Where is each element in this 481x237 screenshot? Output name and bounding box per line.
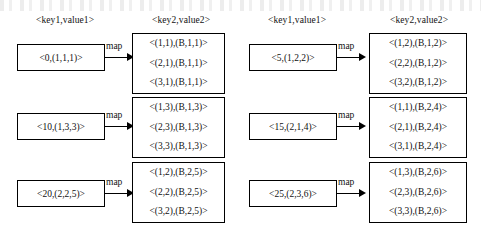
target-record-row: <(3,2),(B,2,5)> bbox=[149, 207, 207, 217]
source-record-box: <20,(2,2,5)> bbox=[17, 180, 105, 207]
target-record-row: <(2,2),(B,2,5)> bbox=[149, 188, 207, 198]
target-record-row: <(3,2),(B,1,2)> bbox=[389, 78, 447, 88]
target-record-row: <(3,1),(B,2,4)> bbox=[389, 142, 447, 152]
target-record-row: <(1,3),(B,2,6)> bbox=[389, 168, 447, 178]
target-records-box: <(1,1),(B,2,4)><(2,1),(B,2,4)><(3,1),(B,… bbox=[369, 97, 467, 158]
column-header-key1-value1-left: <key1,value1> bbox=[36, 15, 94, 25]
source-record-box: <0,(1,1,1)> bbox=[17, 44, 105, 71]
map-arrow-line bbox=[105, 193, 127, 194]
map-arrow-line bbox=[105, 57, 127, 58]
target-record-row: <(2,1),(B,1,1)> bbox=[149, 59, 207, 69]
target-record-row: <(1,3),(B,1,3)> bbox=[149, 103, 207, 113]
target-record-row: <(1,2),(B,2,5)> bbox=[149, 168, 207, 178]
column-header-key1-value1-right: <key1,value1> bbox=[268, 15, 326, 25]
source-record-box: <5,(1,2,2)> bbox=[249, 44, 337, 71]
target-record-row: <(3,3),(B,2,6)> bbox=[389, 207, 447, 217]
map-operation-label: map bbox=[338, 177, 354, 187]
map-operation-label: map bbox=[106, 177, 122, 187]
target-records-box: <(1,1),(B,1,1)><(2,1),(B,1,1)><(3,1),(B,… bbox=[132, 33, 225, 94]
map-arrow-line bbox=[337, 126, 359, 127]
map-arrow-head bbox=[359, 189, 366, 197]
target-record-row: <(2,3),(B,1,3)> bbox=[149, 123, 207, 133]
target-record-row: <(2,3),(B,2,6)> bbox=[389, 188, 447, 198]
column-header-key2-value2-left: <key2,value2> bbox=[152, 15, 210, 25]
map-arrow-head bbox=[359, 53, 366, 61]
map-operation-label: map bbox=[106, 41, 122, 51]
target-records-box: <(1,3),(B,1,3)><(2,3),(B,1,3)><(3,3),(B,… bbox=[132, 97, 225, 158]
target-records-box: <(1,3),(B,2,6)><(2,3),(B,2,6)><(3,3),(B,… bbox=[369, 162, 467, 223]
target-record-row: <(1,1),(B,1,1)> bbox=[149, 39, 207, 49]
target-record-row: <(3,1),(B,1,1)> bbox=[149, 78, 207, 88]
source-record-box: <25,(2,3,6)> bbox=[249, 180, 337, 207]
target-record-row: <(2,2),(B,1,2)> bbox=[389, 59, 447, 69]
target-records-box: <(1,2),(B,1,2)><(2,2),(B,1,2)><(3,2),(B,… bbox=[369, 33, 467, 94]
map-operation-label: map bbox=[338, 110, 354, 120]
column-header-key2-value2-right: <key2,value2> bbox=[390, 15, 448, 25]
scan-bleed-artifact bbox=[0, 0, 481, 11]
target-records-box: <(1,2),(B,2,5)><(2,2),(B,2,5)><(3,2),(B,… bbox=[132, 162, 225, 223]
map-operation-label: map bbox=[106, 110, 122, 120]
target-record-row: <(1,1),(B,2,4)> bbox=[389, 103, 447, 113]
target-record-row: <(2,1),(B,2,4)> bbox=[389, 123, 447, 133]
target-record-row: <(3,3),(B,1,3)> bbox=[149, 142, 207, 152]
map-arrow-line bbox=[337, 193, 359, 194]
map-arrow-head bbox=[359, 122, 366, 130]
source-record-box: <15,(2,1,4)> bbox=[249, 113, 337, 140]
map-arrow-line bbox=[105, 126, 127, 127]
source-record-box: <10,(1,3,3)> bbox=[17, 113, 105, 140]
map-operation-label: map bbox=[338, 41, 354, 51]
map-arrow-line bbox=[337, 57, 359, 58]
target-record-row: <(1,2),(B,1,2)> bbox=[389, 39, 447, 49]
mapreduce-key-value-mapping-diagram: <key1,value1> <key2,value2> <key1,value1… bbox=[0, 0, 481, 237]
